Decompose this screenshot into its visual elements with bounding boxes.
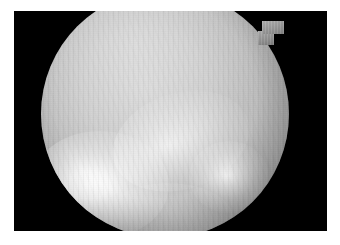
figure-root [0,0,340,245]
scanline-texture [41,11,289,231]
capture-frame [14,11,327,231]
bright-streak-tail [100,74,263,209]
specimen-disc [41,11,289,231]
disc-vignette [41,11,289,231]
primary-bright-lesion [41,131,169,231]
sensor-grain-texture [41,11,289,231]
lower-diffuse-glow [103,183,233,231]
disc-illumination-cast [41,11,289,231]
disc-notch-tab [262,21,284,34]
notch-tab-texture [262,21,284,34]
secondary-bright-spot [189,141,269,213]
